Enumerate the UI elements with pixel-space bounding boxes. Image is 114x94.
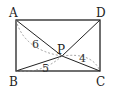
rectangle-diagram: A D B C P 6 4 5 (0, 0, 114, 94)
length-pc: 4 (79, 52, 86, 65)
length-pb: 5 (42, 62, 49, 75)
label-d: D (96, 6, 106, 20)
length-pa: 6 (32, 38, 39, 51)
label-b: B (9, 75, 18, 89)
label-a: A (8, 6, 18, 20)
segment-pb (16, 56, 62, 71)
label-c: C (96, 75, 105, 89)
segment-pd (62, 20, 100, 56)
segment-pa (16, 20, 62, 56)
label-p: P (57, 43, 65, 57)
